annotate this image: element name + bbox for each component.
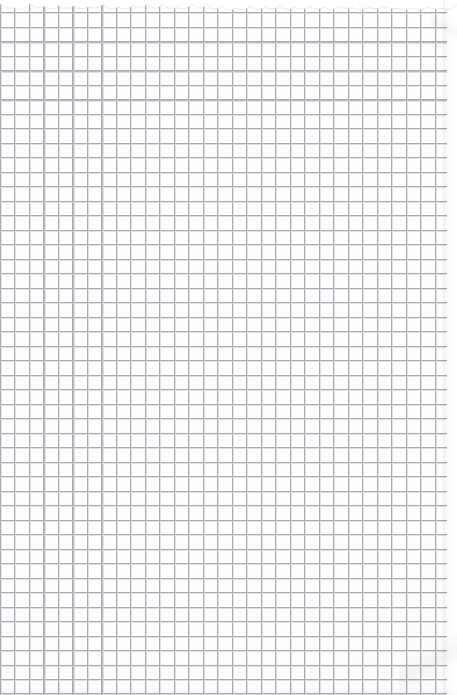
grid-lines-bleed [0,0,447,695]
graph-paper-canvas [0,0,457,695]
paper-sheet [0,0,447,695]
